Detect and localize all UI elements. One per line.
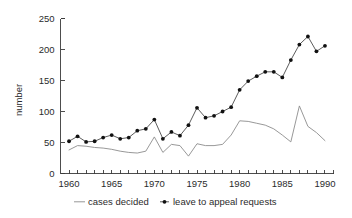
axis-spines bbox=[61, 19, 334, 174]
data-point-marker bbox=[195, 106, 199, 110]
series-cases-decided bbox=[69, 106, 325, 156]
y-axis-title-group: number bbox=[13, 84, 24, 116]
y-tick-label: 0 bbox=[49, 168, 54, 179]
data-point-marker bbox=[135, 129, 139, 133]
data-point-marker bbox=[178, 134, 182, 138]
data-point-marker bbox=[170, 130, 174, 134]
y-tick-label: 50 bbox=[44, 137, 55, 148]
x-tick-label: 1985 bbox=[272, 178, 293, 189]
data-point-marker bbox=[212, 114, 216, 118]
y-tick-label: 100 bbox=[39, 106, 55, 117]
data-point-marker bbox=[306, 35, 310, 39]
data-point-marker bbox=[280, 76, 284, 80]
data-point-marker bbox=[204, 116, 208, 120]
line-chart: number 050100150200250 19601965197019751… bbox=[0, 0, 352, 218]
x-axis-tick-labels: 1960196519701975198019851990 bbox=[58, 178, 335, 189]
data-point-marker bbox=[229, 105, 233, 109]
chart-legend: cases decidedleave to appeal requests bbox=[74, 196, 277, 207]
legend-label-cases-decided: cases decided bbox=[88, 196, 149, 207]
data-point-marker bbox=[297, 43, 301, 47]
data-point-marker bbox=[246, 79, 250, 83]
y-axis-tick-labels: 050100150200250 bbox=[39, 13, 55, 179]
data-point-marker bbox=[323, 44, 327, 48]
series-leave-to-appeal-requests bbox=[67, 35, 327, 144]
y-axis-ticks bbox=[61, 19, 65, 174]
x-tick-label: 1975 bbox=[186, 178, 207, 189]
y-tick-label: 150 bbox=[39, 75, 55, 86]
data-point-marker bbox=[67, 139, 71, 143]
chart-container: number 050100150200250 19601965197019751… bbox=[0, 0, 352, 218]
series-path bbox=[69, 106, 325, 156]
data-point-marker bbox=[144, 127, 148, 131]
x-tick-label: 1990 bbox=[314, 178, 335, 189]
y-axis-title: number bbox=[13, 84, 24, 116]
data-point-marker bbox=[152, 118, 156, 122]
data-point-marker bbox=[84, 140, 88, 144]
data-point-marker bbox=[272, 70, 276, 74]
data-point-marker bbox=[255, 74, 259, 78]
legend-label-leave-to-appeal-requests: leave to appeal requests bbox=[173, 196, 277, 207]
series-path bbox=[69, 36, 325, 141]
data-point-marker bbox=[238, 88, 242, 92]
x-tick-label: 1980 bbox=[229, 178, 250, 189]
x-tick-label: 1970 bbox=[144, 178, 165, 189]
x-tick-label: 1960 bbox=[58, 178, 79, 189]
data-point-marker bbox=[118, 137, 122, 141]
data-point-marker bbox=[76, 134, 80, 138]
data-point-marker bbox=[161, 137, 165, 141]
y-tick-label: 200 bbox=[39, 44, 55, 55]
data-point-marker bbox=[101, 136, 105, 140]
data-point-marker bbox=[110, 133, 114, 137]
x-tick-label: 1965 bbox=[101, 178, 122, 189]
data-point-marker bbox=[187, 123, 191, 127]
data-point-marker bbox=[93, 139, 97, 143]
data-point-marker bbox=[127, 136, 131, 140]
data-point-marker bbox=[263, 70, 267, 74]
data-point-marker bbox=[221, 110, 225, 114]
y-tick-label: 250 bbox=[39, 13, 55, 24]
data-point-marker bbox=[315, 49, 319, 53]
data-point-marker bbox=[289, 58, 293, 62]
legend-marker-dot-leave-requests bbox=[163, 200, 167, 204]
x-axis-ticks bbox=[69, 170, 325, 174]
axis-lines bbox=[61, 19, 334, 174]
